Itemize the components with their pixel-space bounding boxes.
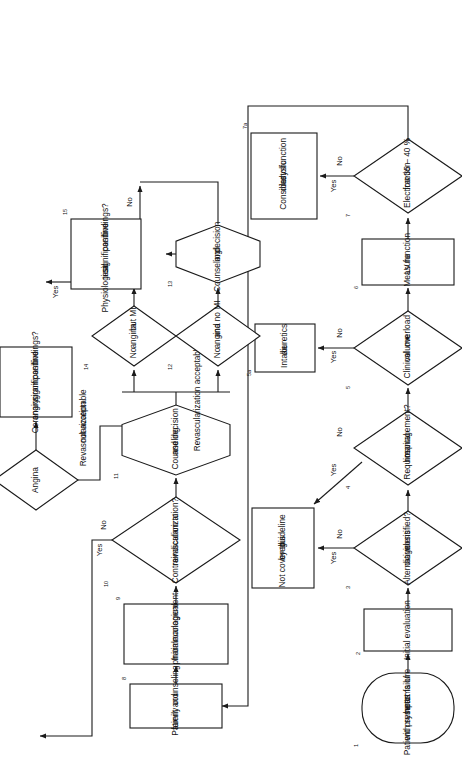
node-n12: Noanginaand no MI12 [167, 300, 260, 370]
node-num: 3 [345, 586, 351, 589]
connector [66, 426, 122, 480]
node-n7a: Considerdiastolicdysfunction7a [242, 122, 317, 219]
node-n3: Alternativediagnosisidentified?3 [345, 511, 462, 589]
node-label: findings? [30, 331, 40, 365]
node-num: 11 [113, 473, 119, 479]
node-label: Initial evaluation [402, 600, 412, 660]
node-label: diuretics [279, 324, 289, 355]
node-n16: Angina16 [0, 450, 78, 514]
node-n15: Physiologicaltest:significantpositivefin… [62, 203, 141, 313]
node-n5a: Intakediuretics5a [246, 324, 315, 376]
node-num: 15 [62, 209, 68, 215]
node-n10: Contraindication torevascularization?10 [103, 497, 240, 587]
connector [314, 462, 362, 504]
edge-label: No [335, 156, 344, 166]
node-n3a: Not coveredby thisguideline [252, 508, 314, 588]
node-n6: MeasureLV function6 [353, 233, 454, 289]
node-num: 1 [353, 744, 359, 747]
edge-label: Yes [329, 180, 338, 193]
rotated-canvas: Patient presentswith symptoms ofheart fa… [0, 0, 462, 766]
node-n17: Coronaryangiogram:significantpositivefin… [0, 331, 72, 433]
node-label: revascularization? [170, 497, 180, 565]
node-n11: Counselingand decision11 [113, 405, 230, 479]
node-label: guideline [277, 514, 287, 548]
node-label: management [170, 592, 180, 642]
node-num: 9 [115, 597, 121, 600]
node-label: heart failure [402, 669, 412, 714]
node-num: 12 [167, 364, 173, 370]
node-label: overload [402, 315, 412, 347]
edge-label: not acceptable [79, 389, 88, 443]
flowchart-svg: Patient presentswith symptoms ofheart fa… [0, 0, 462, 766]
node-num: 14 [83, 364, 89, 370]
node-n5: Clinicalvolumeoverload5 [345, 311, 462, 389]
edge-label: No [335, 427, 344, 437]
node-label: findings? [100, 203, 110, 237]
node-label: decision [212, 221, 222, 252]
edge-label: Yes [329, 552, 338, 565]
edge-label: Yes [329, 464, 338, 477]
node-num: 2 [355, 652, 361, 655]
node-label: dysfunction [278, 137, 288, 180]
node-n13: Counselinganddecision13 [167, 221, 260, 292]
node-label: and decision [170, 408, 180, 455]
edge-label: Yes [95, 544, 104, 557]
node-label: and no MI [212, 300, 222, 337]
node-n7: Electionfraction>35 – 40 %7 [345, 137, 462, 217]
node-num: 8 [121, 677, 127, 680]
edge-label: Yes [51, 286, 60, 299]
node-label: identified? [402, 512, 412, 551]
connector [140, 182, 218, 224]
node-label: LV function [402, 233, 412, 275]
node-n4: Requirehospitalmanagement?4 [345, 404, 462, 489]
node-n8: Patient andfamily counseling8 [121, 665, 222, 736]
edge-label: Revascularization acceptable [193, 344, 202, 451]
node-num: 10 [103, 581, 109, 587]
node-num: 13 [167, 281, 173, 287]
edge-label: No [125, 197, 134, 207]
node-num: 7 [345, 214, 351, 217]
node-n14: Noanginabut MI14 [83, 306, 176, 370]
node-n9: Initialpharmacologicalmanagement9 [115, 592, 228, 665]
node-label: No [212, 347, 222, 358]
node-n1: Patient presentswith symptoms ofheart fa… [353, 669, 454, 756]
node-label: management? [402, 404, 412, 458]
edge-label: Yes [329, 351, 338, 364]
node-num: 4 [345, 486, 351, 489]
node-label: but MI [128, 307, 138, 330]
connector [40, 540, 112, 736]
node-label: No [128, 347, 138, 358]
node-n2: Initial evaluation2 [355, 600, 452, 660]
node-label: Angina [30, 467, 40, 493]
edge-label: No [335, 328, 344, 338]
node-label: family counseling [170, 665, 180, 730]
edge-label: No [335, 529, 344, 539]
edge-label: No [99, 520, 108, 530]
node-label: >35 – 40 % [402, 137, 412, 180]
node-num: 5a [246, 369, 252, 376]
node-num: 6 [353, 286, 359, 289]
flowchart-page: Patient presentswith symptoms ofheart fa… [0, 0, 462, 766]
node-num: 7a [242, 122, 248, 129]
node-num: 5 [345, 386, 351, 389]
